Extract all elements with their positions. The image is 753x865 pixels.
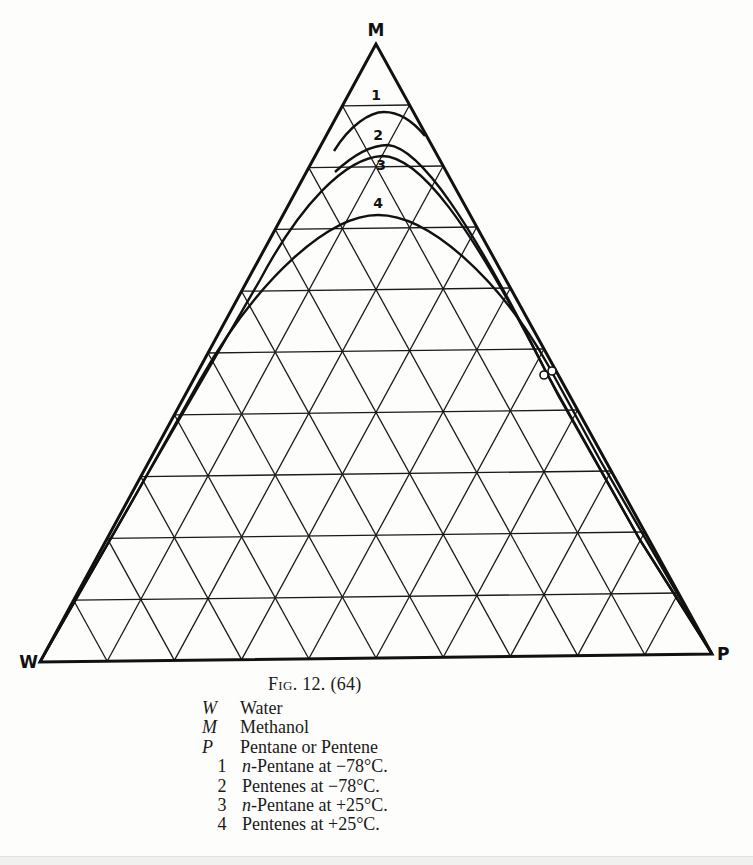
tie-point-right-circle-icon [548, 367, 556, 375]
binodal-curve-3 [40, 156, 712, 662]
triangular-grid [74, 105, 679, 661]
legend-key: 2 [200, 777, 242, 796]
legend-row: 3n-Pentane at +25°C. [200, 796, 388, 815]
legend-key: M [200, 718, 240, 737]
legend-row: 2Pentenes at −78°C. [200, 777, 388, 796]
legend-key: 3 [200, 796, 242, 815]
legend-description: -Pentane at +25°C. [251, 795, 388, 815]
legend-row: MMethanol [200, 718, 388, 737]
grid-line-methanol [174, 410, 577, 415]
grid-line-water [74, 600, 108, 661]
curve-label-3: 3 [376, 157, 386, 173]
legend-text: n-Pentane at +25°C. [242, 796, 388, 815]
curve-label-1: 1 [371, 87, 381, 103]
title-smallcaps: IG [278, 678, 292, 693]
grid-line-pentane [510, 471, 611, 656]
legend-description: Pentane or Pentene [240, 737, 378, 757]
grid-line-water [141, 477, 242, 660]
legend-key: 4 [200, 815, 242, 834]
legend-text: Pentenes at +25°C. [242, 815, 380, 834]
legend-key: 1 [200, 757, 242, 776]
grid-line-methanol [275, 227, 477, 229]
grid-line-methanol [74, 593, 679, 600]
grid-line-methanol [208, 349, 544, 353]
legend-description: -Pentane at −78°C. [251, 756, 388, 776]
legend-description: Pentenes at −78°C. [242, 776, 380, 796]
legend-text: Pentenes at −78°C. [242, 777, 380, 796]
grid-line-water [208, 353, 376, 658]
tie-point-left-circle-icon [540, 371, 548, 379]
legend-text: Methanol [240, 718, 309, 737]
vertex-label-methanol: M [368, 20, 385, 40]
legend: WWaterMMethanolPPentane or Pentene1n-Pen… [200, 699, 388, 835]
legend-row: 1n-Pentane at −78°C. [200, 757, 388, 776]
legend-italic-prefix: n [242, 795, 251, 815]
grid-line-methanol [141, 471, 611, 477]
grid-line-methanol [342, 105, 409, 106]
vertex-label-pentane: P [717, 644, 729, 664]
curve-label-4: 4 [373, 195, 383, 211]
figure-title: FIG. 12. (64) [268, 674, 362, 695]
legend-description: Methanol [240, 717, 309, 737]
grid-line-water [342, 106, 644, 655]
title-rest: . 12. (64) [293, 674, 362, 694]
grid-line-pentane [645, 593, 679, 655]
legend-text: n-Pentane at −78°C. [242, 757, 388, 776]
legend-key: W [200, 699, 240, 718]
grid-line-pentane [376, 349, 544, 658]
binodal-curve-2 [335, 145, 712, 654]
legend-description: Pentenes at +25°C. [242, 814, 380, 834]
legend-row: WWater [200, 699, 388, 718]
vertex-label-water: W [19, 652, 38, 672]
title-prefix: F [268, 674, 278, 694]
legend-text: Water [240, 699, 283, 718]
page-bottom-edge [0, 856, 753, 865]
legend-description: Water [240, 698, 283, 718]
ternary-diagram: 1234 M W P [0, 0, 753, 680]
legend-key: P [200, 738, 240, 757]
curve-label-2: 2 [373, 127, 383, 143]
legend-text: Pentane or Pentene [240, 738, 378, 757]
grid-line-water [242, 291, 444, 657]
legend-row: PPentane or Pentene [200, 738, 388, 757]
grid-line-pentane [242, 227, 477, 660]
grid-line-pentane [107, 105, 409, 661]
grid-line-water [275, 229, 510, 656]
legend-row: 4Pentenes at +25°C. [200, 815, 388, 834]
grid-line-pentane [309, 288, 511, 659]
legend-italic-prefix: n [242, 756, 251, 776]
